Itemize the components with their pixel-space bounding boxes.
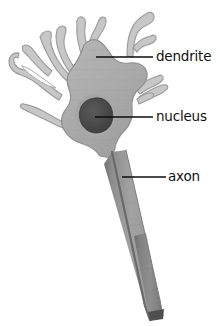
neuron-figure: dendrite nucleus axon (0, 0, 220, 326)
label-nucleus: nucleus (156, 108, 207, 124)
label-axon: axon (168, 168, 200, 184)
label-dendrite: dendrite (156, 48, 211, 64)
neuron-diagram-page: dendrite nucleus axon (0, 0, 220, 326)
nucleus (79, 98, 112, 133)
